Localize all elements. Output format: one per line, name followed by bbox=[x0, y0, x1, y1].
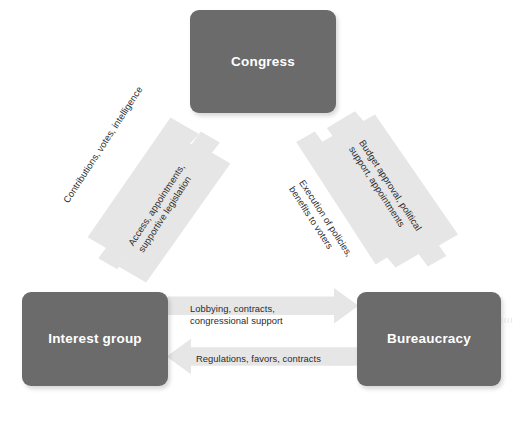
edge-label-bureaucracy-to-interest: Regulations, favors, contracts bbox=[196, 353, 321, 365]
node-congress-label: Congress bbox=[231, 54, 295, 70]
edge-label-congress-to-bureaucracy: Execution of policies,benefits to voters bbox=[286, 178, 355, 266]
diagram-canvas: Congress Interest group Bureaucracy Cont… bbox=[0, 0, 521, 423]
node-bureaucracy-label: Bureaucracy bbox=[387, 331, 471, 347]
edge-label-interest-to-bureaucracy-line1: Lobbying, contracts, bbox=[190, 303, 275, 314]
node-interest-group[interactable]: Interest group bbox=[22, 292, 168, 386]
node-congress[interactable]: Congress bbox=[190, 10, 336, 113]
margin-caption: ( ( ( ( bbox=[501, 316, 519, 326]
edge-label-interest-to-bureaucracy-line2: congressional support bbox=[190, 315, 283, 326]
edge-label-interest-to-congress: Contributions, votes, intelligence bbox=[61, 84, 146, 205]
edge-label-interest-to-bureaucracy: Lobbying, contracts,congressional suppor… bbox=[190, 303, 283, 328]
node-interest-group-label: Interest group bbox=[48, 331, 142, 347]
edge-label-bureaucracy-to-congress: Budget approval, politicalsupport, appoi… bbox=[346, 138, 425, 240]
node-bureaucracy[interactable]: Bureaucracy bbox=[357, 292, 501, 386]
edge-label-congress-to-interest: Access, appointments,supportive legislat… bbox=[126, 162, 199, 256]
